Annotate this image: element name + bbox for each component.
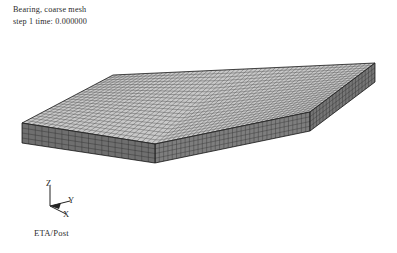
axis-label-z: Z	[46, 178, 51, 188]
axis-triad: Z Y X	[28, 178, 112, 224]
axis-label-x: X	[63, 209, 69, 219]
axis-label-y: Y	[68, 195, 74, 205]
right-end-face	[310, 63, 375, 131]
application-logo-label: ETA/Post	[34, 228, 69, 238]
left-end-face	[22, 123, 155, 163]
top-face	[22, 63, 375, 144]
title-block: Bearing, coarse mesh step 1 time: 0.0000…	[13, 4, 87, 27]
model-viewport[interactable]: Bearing, coarse mesh step 1 time: 0.0000…	[0, 0, 397, 253]
front-face	[155, 112, 310, 163]
model-title-line: Bearing, coarse mesh	[13, 4, 87, 16]
step-time-line: step 1 time: 0.000000	[13, 16, 87, 28]
